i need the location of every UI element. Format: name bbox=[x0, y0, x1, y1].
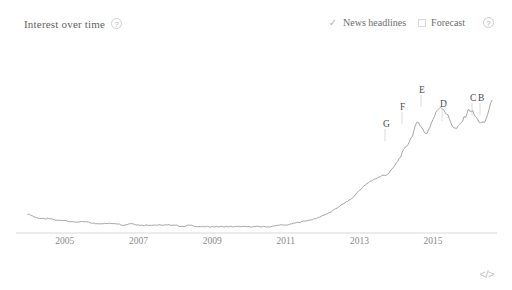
panel-header: Interest over time? ✓ News headlines For… bbox=[0, 0, 512, 46]
news-marker-c[interactable]: C bbox=[470, 93, 476, 103]
embed-code-icon[interactable]: </> bbox=[480, 268, 494, 280]
news-marker-d[interactable]: D bbox=[440, 99, 447, 109]
x-axis-label-2011: 2011 bbox=[276, 236, 295, 246]
news-marker-f[interactable]: F bbox=[400, 102, 405, 112]
news-marker-g[interactable]: G bbox=[383, 119, 390, 129]
x-axis-label-2015: 2015 bbox=[424, 236, 443, 246]
x-axis-tick-labels: 200520072009201120132015 bbox=[0, 236, 512, 254]
x-axis-label-2005: 2005 bbox=[55, 236, 74, 246]
toggle-news-headlines-label: News headlines bbox=[343, 17, 406, 28]
checkbox-empty-icon bbox=[418, 19, 426, 27]
page-title-text: Interest over time bbox=[24, 18, 105, 30]
page-title: Interest over time? bbox=[24, 18, 122, 30]
checkmark-icon: ✓ bbox=[328, 18, 338, 28]
news-headline-markers[interactable]: GFEDCB bbox=[383, 85, 484, 129]
chart-area[interactable]: GFEDCB bbox=[0, 46, 512, 246]
toggle-news-headlines[interactable]: ✓ News headlines bbox=[328, 17, 406, 28]
x-axis-label-2007: 2007 bbox=[129, 236, 148, 246]
controls-help-question-icon[interactable]: ? bbox=[483, 17, 494, 28]
header-controls: ✓ News headlines Forecast ? bbox=[328, 17, 494, 28]
toggle-forecast-label: Forecast bbox=[431, 17, 465, 28]
interest-over-time-line-chart[interactable]: GFEDCB bbox=[0, 46, 512, 246]
x-axis-label-2009: 2009 bbox=[203, 236, 222, 246]
x-axis-label-2013: 2013 bbox=[350, 236, 369, 246]
news-marker-b[interactable]: B bbox=[478, 93, 484, 103]
help-question-icon[interactable]: ? bbox=[111, 18, 122, 29]
toggle-forecast[interactable]: Forecast bbox=[418, 17, 465, 28]
trend-line-path bbox=[28, 100, 492, 227]
news-marker-e[interactable]: E bbox=[419, 85, 425, 95]
